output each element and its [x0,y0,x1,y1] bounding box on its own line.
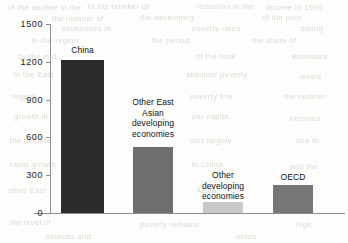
bar-category-label: OECD [265,172,321,183]
plot-area: 150012009006003000 ChinaOther East Asian… [0,0,348,243]
bar [203,202,243,213]
bar [133,147,173,213]
y-axis-tick-mark [46,213,51,214]
y-axis-tick-mark [46,100,51,101]
bar-category-label: China [55,45,110,56]
bar-category-label: Other developing economies [189,170,257,202]
y-axis-tick-label: 300 [26,170,43,180]
bar [273,185,313,213]
bar [61,60,104,213]
x-axis-line [34,213,345,214]
y-axis-tick-label: 1200 [21,57,43,67]
y-axis-tick-mark [46,24,51,25]
bar-category-label: Other East Asian developing economies [119,97,187,139]
y-axis-tick-label: 0 [37,208,43,218]
y-axis-tick-mark [46,137,51,138]
y-axis-tick-label: 900 [26,95,43,105]
y-axis-tick-label: 600 [26,132,43,142]
y-axis-tick-label: 1500 [21,19,43,29]
y-axis-line [50,24,51,214]
y-axis-tick-mark [46,175,51,176]
y-axis-tick-mark [46,62,51,63]
bar-chart-figure: of the decline in theto the number ofred… [0,0,348,243]
